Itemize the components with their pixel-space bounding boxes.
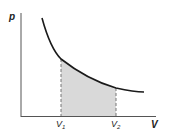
pv-diagram: p V V1 V2 <box>0 0 177 133</box>
v1-label: V1 <box>56 119 65 130</box>
y-axis-label: p <box>8 11 15 22</box>
v2-label: V2 <box>111 119 121 130</box>
shaded-work-area <box>61 59 116 116</box>
x-axis-label: V <box>151 119 159 130</box>
